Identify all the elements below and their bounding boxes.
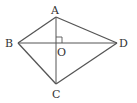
label-b: B — [5, 37, 13, 50]
edge-ad — [56, 17, 117, 43]
edge-ab — [18, 17, 56, 43]
geometry-diagram: A B D C O — [0, 0, 137, 103]
edge-bc — [18, 43, 56, 84]
label-d: D — [119, 37, 128, 50]
right-angle-mark — [56, 37, 62, 43]
label-a: A — [50, 4, 60, 17]
label-c: C — [52, 88, 60, 101]
label-o: O — [57, 46, 66, 59]
